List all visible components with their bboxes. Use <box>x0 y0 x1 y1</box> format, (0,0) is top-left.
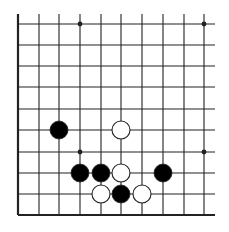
black-stone <box>92 164 110 182</box>
black-stone <box>50 121 68 139</box>
black-stone <box>71 164 89 182</box>
star-point-icon <box>78 150 83 155</box>
star-point-icon <box>78 22 83 27</box>
white-stone <box>112 164 130 182</box>
black-stone <box>154 164 172 182</box>
go-board[interactable] <box>0 0 229 232</box>
black-stone <box>112 185 130 203</box>
star-point-icon <box>202 22 207 27</box>
white-stone <box>133 185 151 203</box>
board-grid <box>18 14 215 215</box>
stones <box>50 121 172 203</box>
white-stone <box>92 185 110 203</box>
white-stone <box>112 121 130 139</box>
star-point-icon <box>202 150 207 155</box>
